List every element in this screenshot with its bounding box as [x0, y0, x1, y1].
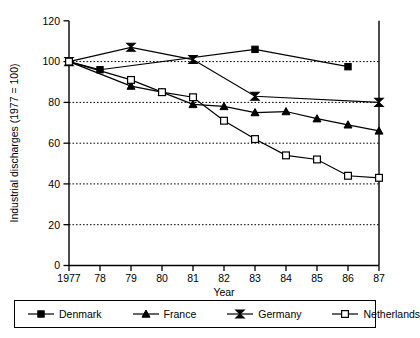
data-point [283, 152, 290, 159]
data-point [345, 172, 352, 179]
data-point [128, 77, 135, 84]
data-point [190, 94, 197, 101]
open-square-icon [331, 307, 359, 321]
y-tick-120: 120 [42, 15, 60, 27]
x-axis-tick-labels: 1977 78 79 80 81 82 83 84 85 86 87 [57, 272, 385, 284]
x-axis-ticks [69, 266, 379, 272]
data-point [252, 46, 258, 52]
x-tick-86: 86 [342, 272, 354, 284]
x-tick-1977: 1977 [57, 272, 81, 284]
y-tick-20: 20 [48, 219, 60, 231]
y-axis-tick-labels: 120 100 80 60 40 20 0 [42, 15, 60, 272]
data-point [314, 156, 321, 163]
filled-triangle-icon [132, 307, 160, 321]
series-netherlands [66, 58, 383, 181]
data-point [66, 58, 73, 65]
y-tick-100: 100 [42, 55, 60, 67]
gridlines [69, 62, 379, 225]
legend-label-netherlands: Netherlands [363, 309, 420, 320]
x-tick-81: 81 [187, 272, 199, 284]
data-series-layer [65, 43, 383, 181]
y-axis-title: Industrial discharges (1977 = 100) [8, 63, 20, 222]
legend-item-france[interactable]: France [132, 307, 197, 321]
x-tick-82: 82 [218, 272, 230, 284]
x-axis-title: Year [213, 286, 235, 298]
x-tick-84: 84 [280, 272, 292, 284]
legend-item-germany[interactable]: Germany [226, 307, 301, 321]
y-tick-80: 80 [48, 96, 60, 108]
data-point [345, 63, 351, 69]
x-tick-78: 78 [94, 272, 106, 284]
y-tick-0: 0 [54, 259, 60, 271]
chart-legend: Denmark France Germany Netherlands [14, 300, 376, 328]
x-tick-83: 83 [249, 272, 261, 284]
y-tick-60: 60 [48, 137, 60, 149]
plot-canvas: 120 100 80 60 40 20 0 1977 78 79 [0, 0, 394, 300]
filled-square-icon [27, 307, 55, 321]
x-tick-87: 87 [373, 272, 385, 284]
bowtie-icon [226, 307, 254, 321]
legend-label-denmark: Denmark [59, 309, 102, 320]
data-point [252, 136, 259, 143]
legend-item-netherlands[interactable]: Netherlands [331, 307, 420, 321]
y-tick-40: 40 [48, 178, 60, 190]
legend-item-denmark[interactable]: Denmark [27, 307, 102, 321]
data-point [376, 174, 383, 181]
legend-label-france: France [164, 309, 197, 320]
data-point [221, 117, 228, 124]
x-tick-79: 79 [125, 272, 137, 284]
x-tick-85: 85 [311, 272, 323, 284]
data-point [159, 89, 166, 96]
legend-label-germany: Germany [258, 309, 301, 320]
x-tick-80: 80 [156, 272, 168, 284]
